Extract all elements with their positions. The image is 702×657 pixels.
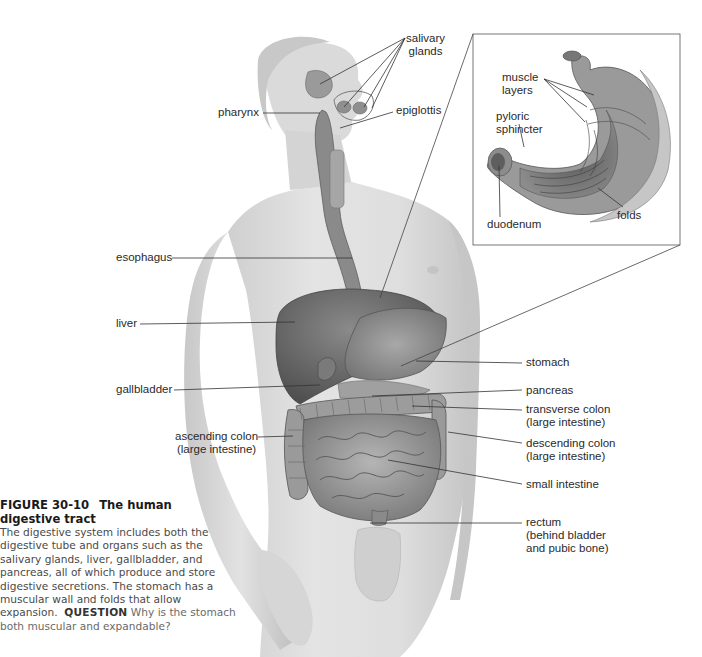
- figure-number: FIGURE 30-10: [0, 498, 89, 512]
- label-esophagus: esophagus: [116, 251, 172, 264]
- label-transverse-colon: transverse colon (large intestine): [526, 403, 610, 429]
- label-text: (large intestine): [526, 416, 610, 429]
- stomach-inset: [473, 34, 680, 245]
- label-rectum: rectum (behind bladder and pubic bone): [526, 516, 608, 555]
- figure-caption: FIGURE 30-10The human digestive tract Th…: [0, 498, 236, 633]
- label-stomach: stomach: [526, 356, 569, 369]
- figure-title-line: FIGURE 30-10The human digestive tract: [0, 498, 236, 526]
- label-text: and pubic bone): [526, 542, 608, 555]
- label-descending-colon: descending colon (large intestine): [526, 437, 616, 463]
- inset-label-folds: folds: [617, 209, 641, 222]
- label-pancreas: pancreas: [526, 384, 573, 397]
- label-text: sphincter: [496, 123, 543, 136]
- label-text: rectum: [526, 516, 608, 529]
- label-epiglottis: epiglottis: [396, 104, 441, 117]
- label-text: pyloric: [496, 110, 543, 123]
- caption-body: The digestive system includes both the d…: [0, 526, 236, 633]
- inset-label-duodenum: duodenum: [487, 218, 541, 231]
- label-text: salivary: [406, 32, 445, 45]
- label-text: ascending colon: [175, 430, 258, 443]
- label-liver: liver: [116, 317, 137, 330]
- label-ascending-colon: ascending colon (large intestine): [175, 430, 258, 456]
- label-text: (large intestine): [526, 450, 616, 463]
- inset-label-pyloric-sphincter: pyloric sphincter: [496, 110, 543, 136]
- label-gallbladder: gallbladder: [116, 383, 172, 396]
- label-pharynx: pharynx: [218, 106, 259, 119]
- label-text: glands: [406, 45, 445, 58]
- label-text: (large intestine): [175, 443, 258, 456]
- caption-text: The digestive system includes both the d…: [0, 526, 215, 618]
- inset-label-muscle-layers: muscle layers: [502, 71, 538, 97]
- label-text: muscle: [502, 71, 538, 84]
- label-text: transverse colon: [526, 403, 610, 416]
- label-text: descending colon: [526, 437, 616, 450]
- label-text: layers: [502, 84, 538, 97]
- label-text: (behind bladder: [526, 529, 608, 542]
- label-salivary-glands: salivary glands: [406, 32, 445, 58]
- label-small-intestine: small intestine: [526, 478, 599, 491]
- question-label: QUESTION: [64, 606, 127, 618]
